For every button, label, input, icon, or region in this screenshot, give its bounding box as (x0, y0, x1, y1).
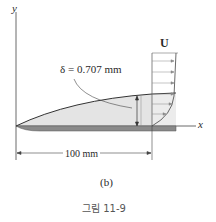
diagram-canvas (0, 0, 216, 222)
boundary-layer-figure: y x U δ = 0.707 mm 100 mm (b) 그림 11-9 (0, 0, 216, 222)
y-axis-label: y (12, 2, 17, 14)
x-axis-label: x (198, 118, 203, 130)
subfigure-label: (b) (100, 176, 113, 188)
profile-shade (152, 94, 176, 126)
boundary-layer-region (16, 94, 152, 126)
figure-caption: 그림 11-9 (82, 200, 126, 215)
length-dimension-label: 100 mm (63, 148, 100, 159)
boundary-layer-thickness-label: δ = 0.707 mm (60, 63, 122, 75)
free-stream-velocity-label: U (160, 36, 169, 51)
